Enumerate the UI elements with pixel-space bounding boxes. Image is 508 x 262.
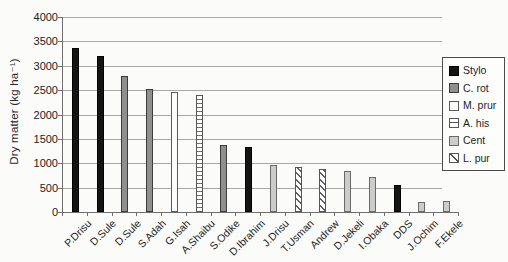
y-tick-mark: [58, 188, 62, 189]
y-tick-label: 2500: [26, 84, 58, 96]
bar: [394, 185, 401, 212]
gridline: [63, 163, 442, 164]
legend-swatch-icon: [449, 136, 459, 146]
y-tick-label: 500: [26, 182, 58, 194]
x-category-label: D.Sule: [87, 217, 118, 248]
bar: [295, 167, 302, 212]
legend-item: L. pur: [449, 152, 504, 165]
y-tick-mark: [58, 41, 62, 42]
gridline: [63, 188, 442, 189]
x-tick-mark: [62, 213, 63, 216]
y-axis-title: Dry matter (kg ha⁻¹): [7, 37, 22, 187]
x-tick-mark: [409, 213, 410, 216]
gridline: [63, 139, 442, 140]
legend-label: C. rot: [463, 82, 489, 95]
legend-label: M. prur: [463, 99, 496, 112]
x-tick-mark: [334, 213, 335, 216]
legend-swatch-icon: [449, 153, 459, 163]
gridline: [63, 115, 442, 116]
legend-label: A. his: [463, 117, 489, 130]
bar: [418, 202, 425, 212]
bar: [146, 89, 153, 212]
y-tick-label: 4000: [26, 11, 58, 23]
bar: [97, 56, 104, 212]
x-tick-mark: [359, 213, 360, 216]
legend-swatch-icon: [449, 101, 459, 111]
y-tick-label: 0: [26, 206, 58, 218]
legend-item: Cent: [449, 134, 504, 147]
x-tick-mark: [260, 213, 261, 216]
legend-item: M. prur: [449, 99, 504, 112]
x-tick-mark: [87, 213, 88, 216]
x-tick-mark: [384, 213, 385, 216]
legend-label: Stylo: [463, 64, 486, 77]
bar: [121, 76, 128, 212]
y-tick-label: 1000: [26, 157, 58, 169]
y-tick-mark: [58, 66, 62, 67]
bar: [270, 165, 277, 212]
legend-label: Cent: [463, 134, 485, 147]
y-tick-mark: [58, 115, 62, 116]
y-tick-label: 2000: [26, 109, 58, 121]
x-tick-mark: [112, 213, 113, 216]
bar: [220, 145, 227, 212]
gridline: [63, 41, 442, 42]
legend: StyloC. rotM. prurA. hisCentL. pur: [442, 57, 505, 171]
bar: [319, 169, 326, 212]
y-tick-label: 1500: [26, 133, 58, 145]
bar: [369, 177, 376, 212]
x-tick-mark: [433, 213, 434, 216]
y-tick-label: 3500: [26, 35, 58, 47]
x-tick-mark: [161, 213, 162, 216]
legend-swatch-icon: [449, 66, 459, 76]
x-tick-mark: [136, 213, 137, 216]
bar: [196, 95, 203, 212]
y-tick-label: 3000: [26, 60, 58, 72]
legend-swatch-icon: [449, 118, 459, 128]
y-tick-mark: [58, 90, 62, 91]
legend-item: A. his: [449, 117, 504, 130]
legend-item: Stylo: [449, 64, 504, 77]
gridline: [63, 90, 442, 91]
gridline: [63, 17, 442, 18]
bar: [171, 92, 178, 212]
y-tick-mark: [58, 17, 62, 18]
gridline: [63, 66, 442, 67]
bar: [344, 171, 351, 212]
x-tick-mark: [458, 213, 459, 216]
x-tick-mark: [235, 213, 236, 216]
bar: [443, 201, 450, 212]
bar: [72, 48, 79, 212]
legend-item: C. rot: [449, 82, 504, 95]
legend-swatch-icon: [449, 83, 459, 93]
x-tick-mark: [186, 213, 187, 216]
y-tick-mark: [58, 163, 62, 164]
bar: [245, 147, 252, 212]
x-tick-mark: [310, 213, 311, 216]
x-tick-mark: [285, 213, 286, 216]
x-tick-mark: [211, 213, 212, 216]
y-tick-mark: [58, 139, 62, 140]
legend-label: L. pur: [463, 152, 490, 165]
x-category-label: P.Drisu: [61, 217, 93, 249]
bar-chart-figure: Dry matter (kg ha⁻¹) 0500100015002000250…: [0, 0, 508, 262]
